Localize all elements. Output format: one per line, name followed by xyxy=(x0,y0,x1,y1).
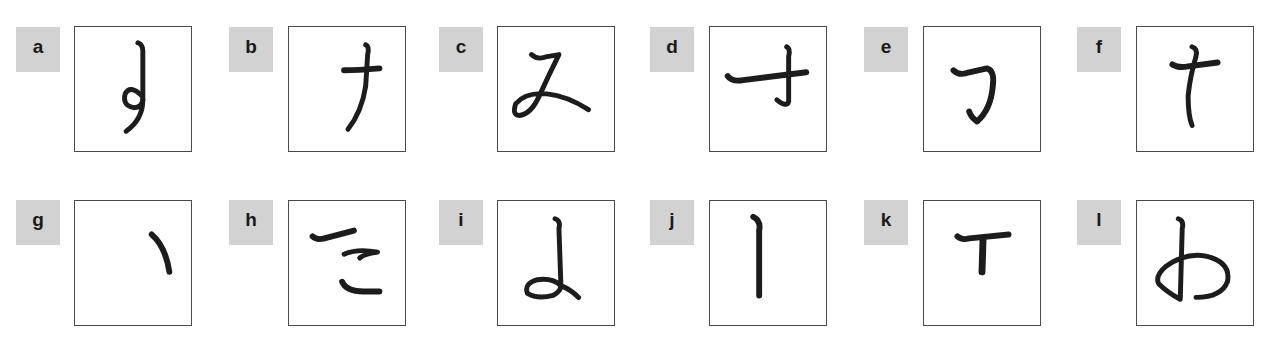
glyph-i-icon xyxy=(498,201,614,325)
glyph-e-icon xyxy=(924,27,1040,151)
glyph-panel-k xyxy=(923,200,1041,326)
panel-label-b: b xyxy=(229,27,273,72)
glyph-d-icon xyxy=(710,27,826,151)
glyph-panel-e xyxy=(923,26,1041,152)
panel-label-i: i xyxy=(439,200,483,245)
glyph-panel-h xyxy=(288,200,406,326)
panel-label-g: g xyxy=(16,200,60,245)
panel-label-c: c xyxy=(439,27,483,72)
glyph-panel-j xyxy=(709,200,827,326)
glyph-h-icon xyxy=(289,201,405,325)
glyph-panel-f xyxy=(1136,26,1254,152)
glyph-panel-a xyxy=(74,26,192,152)
glyph-panel-d xyxy=(709,26,827,152)
glyph-panel-b xyxy=(288,26,406,152)
glyph-g-icon xyxy=(75,201,191,325)
glyph-a-icon xyxy=(75,27,191,151)
glyph-j-icon xyxy=(710,201,826,325)
glyph-l-icon xyxy=(1137,201,1253,325)
glyph-panel-l xyxy=(1136,200,1254,326)
panel-label-h: h xyxy=(229,200,273,245)
glyph-panel-c xyxy=(497,26,615,152)
glyph-b-icon xyxy=(289,27,405,151)
glyph-f-icon xyxy=(1137,27,1253,151)
panel-label-k: k xyxy=(864,200,908,245)
panel-label-e: e xyxy=(864,27,908,72)
glyph-k-icon xyxy=(924,201,1040,325)
panel-label-l: l xyxy=(1077,200,1121,245)
panel-label-j: j xyxy=(650,200,694,245)
panel-label-f: f xyxy=(1077,27,1121,72)
glyph-panel-g xyxy=(74,200,192,326)
glyph-c-icon xyxy=(498,27,614,151)
glyph-panel-i xyxy=(497,200,615,326)
panel-label-a: a xyxy=(16,27,60,72)
panel-label-d: d xyxy=(650,27,694,72)
